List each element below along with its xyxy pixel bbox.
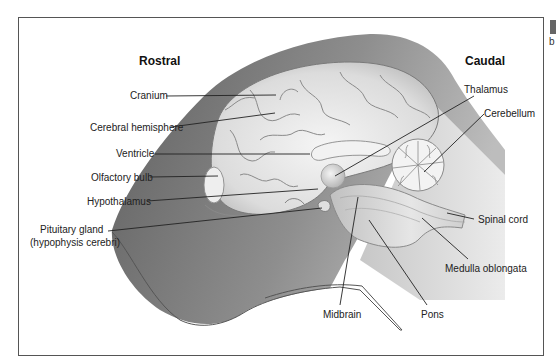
label-pituitary-line1: Pituitary gland — [40, 224, 103, 235]
caudal-label: Caudal — [465, 54, 505, 68]
thalamus-shape — [321, 164, 345, 188]
label-spinal-cord: Spinal cord — [478, 214, 528, 225]
pituitary-shape — [318, 201, 330, 212]
label-hypothalamus: Hypothalamus — [87, 196, 151, 207]
cerebellum-shape — [392, 139, 444, 191]
label-cerebellum: Cerebellum — [484, 108, 535, 119]
label-cerebral-hemisphere: Cerebral hemisphere — [90, 122, 184, 133]
rostral-label: Rostral — [139, 54, 180, 68]
label-pituitary-line2: (hypophysis cerebri) — [30, 237, 120, 248]
label-olfactory-bulb: Olfactory bulb — [91, 172, 153, 183]
olfactory-bulb-shape — [204, 167, 224, 203]
label-cranium: Cranium — [130, 90, 168, 101]
label-ventricle: Ventricle — [116, 148, 155, 159]
label-pons: Pons — [421, 309, 444, 320]
label-midbrain: Midbrain — [323, 309, 361, 320]
label-thalamus: Thalamus — [464, 84, 508, 95]
label-medulla-oblongata: Medulla oblongata — [445, 263, 527, 274]
